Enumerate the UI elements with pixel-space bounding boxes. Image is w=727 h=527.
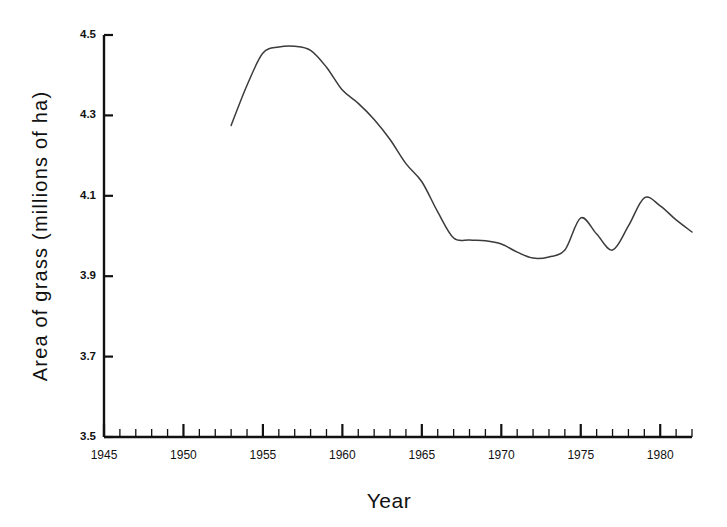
- y-tick-label: 3.7: [80, 350, 96, 362]
- line-chart-plot: Area of grass (millions of ha) 3.53.73.9…: [0, 0, 727, 527]
- y-tick-label: 4.1: [80, 189, 97, 201]
- x-tick-label: 1950: [170, 448, 197, 462]
- y-tick-label: 4.3: [80, 108, 96, 120]
- axes-group: [104, 35, 692, 437]
- x-tick-label: 1970: [488, 448, 515, 462]
- y-tick-label: 3.5: [80, 430, 97, 442]
- x-tick-label: 1960: [329, 448, 356, 462]
- x-tick-label: 1965: [408, 448, 435, 462]
- x-tick-label-group: 19451950195519601965197019751980: [91, 448, 674, 462]
- y-tick-label: 4.5: [80, 28, 97, 40]
- x-axis-title: Year: [367, 489, 411, 512]
- y-tick-label: 3.9: [80, 269, 96, 281]
- data-series-group: [231, 46, 692, 258]
- x-tick-label: 1955: [250, 448, 277, 462]
- y-tick-group: [104, 35, 113, 437]
- x-tick-label: 1975: [567, 448, 594, 462]
- x-tick-group: [104, 424, 692, 437]
- x-tick-label: 1980: [647, 448, 674, 462]
- x-tick-label: 1945: [91, 448, 118, 462]
- y-axis-title: Area of grass (millions of ha): [29, 91, 51, 382]
- y-tick-label-group: 3.53.73.94.14.34.5: [80, 28, 97, 442]
- chart-figure: Area of grass (millions of ha) 3.53.73.9…: [0, 0, 727, 527]
- data-series-line: [231, 46, 692, 258]
